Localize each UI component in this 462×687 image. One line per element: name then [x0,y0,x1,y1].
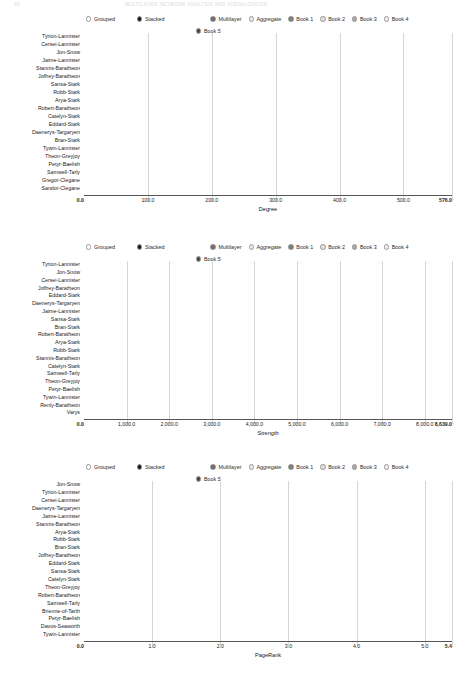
bar-segment[interactable] [179,178,183,183]
bar-segment[interactable] [170,154,182,159]
bar-segment[interactable] [125,577,148,582]
bar-segment[interactable] [176,371,183,376]
bar-segment[interactable] [147,186,156,191]
bar-segment[interactable] [208,577,226,582]
bar-row[interactable] [84,356,452,361]
bar-row[interactable] [84,90,452,95]
bar-segment[interactable] [194,138,207,143]
bar-row[interactable] [84,130,452,135]
bar-segment[interactable] [407,34,452,39]
bar-segment[interactable] [159,154,169,159]
bar-segment[interactable] [327,498,362,503]
bar-segment[interactable] [158,609,168,614]
bar-row[interactable] [84,122,452,127]
bar-row[interactable] [84,82,452,87]
bar-segment[interactable] [278,82,286,87]
bar-segment[interactable] [203,538,232,543]
bar-segment[interactable] [361,262,393,267]
bar-segment[interactable] [242,270,280,275]
bar-segment[interactable] [196,74,216,79]
bar-segment[interactable] [157,356,170,361]
bar-segment[interactable] [84,122,153,127]
legend-series-book-1[interactable]: Book 1 [288,464,313,470]
bar-segment[interactable] [173,146,185,151]
bar-segment[interactable] [84,138,148,143]
bar-segment[interactable] [177,122,199,127]
bar-segment[interactable] [138,624,146,629]
bar-segment[interactable] [128,561,154,566]
bar-segment[interactable] [153,624,167,629]
bar-segment[interactable] [179,170,187,175]
bar-segment[interactable] [84,490,167,495]
legend-swatch-icon[interactable] [384,244,389,249]
bar-segment[interactable] [216,514,256,519]
bar-segment[interactable] [164,601,180,606]
radio-dot-icon[interactable] [137,16,142,21]
bar-segment[interactable] [265,530,287,535]
bar-segment[interactable] [147,624,154,629]
bar-row[interactable] [84,340,452,345]
bar-segment[interactable] [256,538,275,543]
bar-segment[interactable] [254,90,268,95]
bar-segment[interactable] [84,286,159,291]
legend-swatch-icon[interactable] [320,16,325,21]
bar-segment[interactable] [122,395,139,400]
bar-segment[interactable] [162,90,191,95]
bar-segment[interactable] [135,356,157,361]
bar-segment[interactable] [209,356,217,361]
bar-segment[interactable] [145,379,157,384]
bar-segment[interactable] [233,553,248,558]
bar-segment[interactable] [190,293,243,298]
bar-segment[interactable] [180,379,184,384]
bar-segment[interactable] [118,410,133,415]
bar-segment[interactable] [244,74,270,79]
bar-segment[interactable] [84,585,124,590]
bar-segment[interactable] [238,530,265,535]
bar-segment[interactable] [222,332,223,337]
bar-segment[interactable] [144,498,186,503]
bar-row[interactable] [84,317,452,322]
bar-segment[interactable] [190,340,205,345]
bar-segment[interactable] [111,632,123,637]
bar-segment[interactable] [162,585,187,590]
bar-segment[interactable] [223,286,249,291]
bar-segment[interactable] [283,498,327,503]
bar-segment[interactable] [287,530,307,535]
bar-segment[interactable] [226,545,249,550]
bar-segment[interactable] [213,82,239,87]
bar-segment[interactable] [139,632,149,637]
bar-row[interactable] [84,403,452,408]
bar-segment[interactable] [280,270,312,275]
bar-row[interactable] [84,569,452,574]
bar-segment[interactable] [124,632,139,637]
bar-segment[interactable] [84,178,135,183]
bar-segment[interactable] [212,122,221,127]
bar-segment[interactable] [84,34,203,39]
bar-segment[interactable] [159,286,194,291]
bar-segment[interactable] [135,178,149,183]
bar-segment[interactable] [180,387,183,392]
bar-segment[interactable] [302,58,329,63]
bar-segment[interactable] [177,309,207,314]
bar-segment[interactable] [181,154,191,159]
bar-segment[interactable] [84,42,190,47]
bar-segment[interactable] [147,601,165,606]
bar-segment[interactable] [184,130,199,135]
bar-segment[interactable] [342,270,368,275]
legend-series-book-4[interactable]: Book 4 [384,16,409,22]
bar-segment[interactable] [185,577,208,582]
bar-segment[interactable] [239,317,243,322]
bar-segment[interactable] [176,278,214,283]
bar-segment[interactable] [323,262,361,267]
bar-segment[interactable] [114,617,129,622]
bar-segment[interactable] [129,617,152,622]
bar-segment[interactable] [248,553,253,558]
legend-swatch-icon[interactable] [249,16,254,21]
bar-segment[interactable] [147,609,158,614]
bar-row[interactable] [84,301,452,306]
bar-segment[interactable] [197,561,207,566]
bar-segment[interactable] [84,482,171,487]
bar-segment[interactable] [259,50,291,55]
bar-segment[interactable] [275,538,283,543]
bar-row[interactable] [84,154,452,159]
